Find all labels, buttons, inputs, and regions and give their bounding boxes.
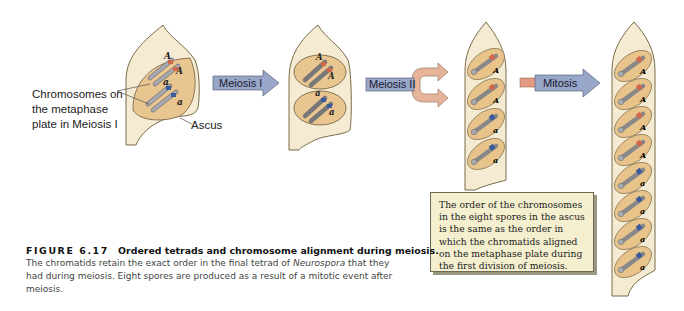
ascus-label: Ascus: [191, 119, 222, 131]
svg-text:A: A: [163, 51, 171, 61]
svg-text:a: a: [640, 262, 645, 272]
svg-text:a: a: [640, 234, 645, 244]
note-box: The order of the chromosomes in the eigh…: [430, 192, 594, 272]
svg-text:A: A: [639, 66, 646, 76]
caption-italic-term: Neurospora: [293, 258, 345, 268]
svg-text:a: a: [177, 97, 183, 107]
callout-line-2: the metaphase: [32, 102, 123, 117]
svg-text:a: a: [315, 88, 321, 98]
callout-line-1: Chromosomes on: [32, 87, 123, 102]
svg-text:A: A: [492, 95, 499, 105]
svg-text:a: a: [163, 77, 169, 87]
meiosis-1-label: Meiosis I: [219, 77, 262, 89]
caption-title: Ordered tetrads and chromosome alignment…: [118, 245, 439, 256]
figure-number: FIGURE 6.17: [26, 245, 109, 256]
svg-text:a: a: [640, 206, 645, 216]
svg-text:A: A: [327, 71, 335, 81]
chromosomes-callout: Chromosomes on the metaphase plate in Me…: [32, 87, 123, 132]
svg-text:A: A: [639, 94, 646, 104]
svg-text:A: A: [639, 150, 646, 160]
caption-body-part-1: The chromatids retain the exact order in…: [26, 258, 293, 268]
ascus-after-meiosis-2: A A a a: [462, 22, 510, 190]
ascus-metaphase-1: A A a a: [117, 25, 199, 145]
ascus-after-meiosis-1: A A a a: [289, 25, 351, 150]
svg-text:A: A: [639, 122, 646, 132]
svg-text:A: A: [175, 66, 183, 76]
meiosis-2-label: Meiosis II: [369, 78, 415, 90]
svg-text:a: a: [493, 155, 498, 165]
callout-line-3: plate in Meiosis I: [32, 117, 123, 132]
svg-text:a: a: [640, 178, 645, 188]
svg-text:a: a: [329, 107, 335, 117]
svg-text:A: A: [492, 65, 499, 75]
mitosis-label: Mitosis: [543, 77, 577, 89]
figure-caption: FIGURE 6.17 Ordered tetrads and chromoso…: [26, 245, 396, 296]
ascus-after-mitosis: A A A A a a a a: [609, 22, 657, 296]
svg-text:A: A: [315, 52, 323, 62]
caption-title-line: FIGURE 6.17 Ordered tetrads and chromoso…: [26, 245, 396, 256]
caption-body: The chromatids retain the exact order in…: [26, 257, 396, 296]
svg-text:a: a: [493, 125, 498, 135]
